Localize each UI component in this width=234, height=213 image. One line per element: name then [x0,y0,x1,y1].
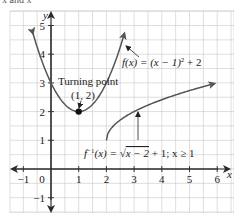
turning-point-coords: (1, 2) [71,89,95,102]
f-inverse-label: f−1(x) = √x − 2 + 1; x ≥ 1 [84,147,195,160]
turning-point-label: Turning point [58,75,118,87]
function-graph: −10123456−112345 Turning point (1, 2) f(… [0,0,234,213]
x-axis-label: x [226,168,232,180]
x-tick-label: 2 [104,173,110,185]
x-tick-label: 5 [187,173,193,185]
x-tick-label: 6 [214,173,220,185]
f-label-main: f(x) = (x − 1) [122,56,181,69]
x-tick-label: −1 [17,173,29,185]
x-tick-label: 3 [131,173,137,185]
y-tick-label: −1 [33,192,45,204]
y-tick-label: 3 [40,77,46,89]
y-tick-label: 2 [40,106,46,118]
x-tick-label: 0 [39,173,45,185]
turning-point-pointer [79,101,81,108]
f-function-label: f(x) = (x − 1)2 + 2 [122,56,202,69]
finv-label-tail: + 1; x ≥ 1 [149,147,195,159]
finv-label-mid: (x) = [95,147,120,160]
x-tick-label: 4 [159,173,165,185]
y-axis-label: y [42,9,48,21]
inverse-function-curve [106,84,214,141]
finv-label-radicand: x − 2 [125,147,150,159]
f-label-tail: + 2 [184,56,201,68]
y-tick-label: 5 [40,20,46,32]
y-tick-label: 1 [40,134,46,146]
x-tick-label: 1 [76,173,82,185]
turning-point-marker [76,108,82,114]
